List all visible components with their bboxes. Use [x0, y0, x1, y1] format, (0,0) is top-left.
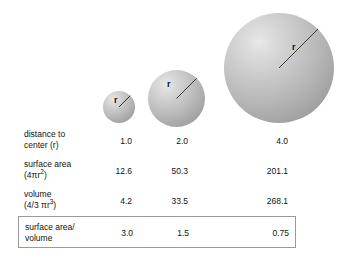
cell-distance-col1: 1.0	[96, 136, 132, 146]
large-sphere-radius-label: r	[292, 43, 296, 52]
formula-prefix: (4/3	[24, 200, 41, 210]
formula-suffix: )	[44, 170, 47, 180]
cell-distance-col3: 4.0	[244, 136, 288, 146]
medium-sphere-radius-label: r	[167, 80, 171, 89]
cell-surface-area-col1: 12.6	[96, 166, 132, 176]
cell-surface-area-col3: 201.1	[244, 166, 288, 176]
table-row-distance: distance to center (r) 1.0 2.0 4.0	[0, 126, 352, 156]
cell-volume-col2: 33.5	[152, 196, 188, 206]
cell-surface-area-col2: 50.3	[152, 166, 188, 176]
sphere-surface-volume-figure: r r r distance to center (r) 1.0 2.0 4.0…	[0, 0, 352, 263]
table-row-surface-area: surface area (4πr2) 12.6 50.3 201.1	[0, 156, 352, 186]
cell-ratio-col3: 0.75	[245, 228, 289, 238]
small-sphere-radius-label: r	[114, 96, 118, 105]
cell-ratio-col1: 3.0	[97, 228, 133, 238]
cell-distance-col2: 2.0	[152, 136, 188, 146]
large-sphere	[224, 13, 334, 123]
medium-sphere	[148, 70, 205, 127]
cell-volume-col3: 268.1	[244, 196, 288, 206]
table-row-surface-area-over-volume: surface area/ volume 3.0 1.5 0.75	[18, 216, 296, 248]
small-sphere	[103, 91, 135, 123]
data-table: distance to center (r) 1.0 2.0 4.0 surfa…	[0, 126, 352, 216]
formula-prefix: (4	[24, 170, 32, 180]
cell-ratio-col2: 1.5	[153, 228, 189, 238]
table-row-volume: volume (4/3 πr3) 4.2 33.5 268.1	[0, 186, 352, 216]
formula-suffix: )	[53, 200, 56, 210]
cell-volume-col1: 4.2	[96, 196, 132, 206]
